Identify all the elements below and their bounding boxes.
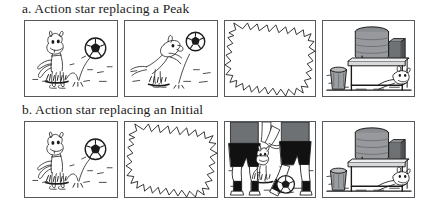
action-star-burst-icon [225,21,315,96]
soccer-ball [85,38,106,58]
panel-b2-action-star[interactable] [124,121,218,198]
water-cooler-table-art [323,21,414,96]
comic-figure: a. Action star replacing a Peak [0,0,427,216]
panel-b4-water-cooler-table[interactable] [322,121,415,198]
row-b-caption: b. Action star replacing an Initial [22,101,203,118]
panel-a2-dog-heading-ball[interactable] [124,20,218,97]
row-b-panels [0,121,427,199]
row-a-caption: a. Action star replacing a Peak [22,0,189,17]
panel-a4-water-cooler-table[interactable] [322,20,415,97]
water-cooler-table-art [323,122,414,197]
soccer-ball [186,32,205,51]
dog-bouncing-ball-art [25,122,117,197]
row-a-panels [0,20,427,98]
dog-heading-ball-art [125,21,217,96]
dog-bouncing-ball-art [25,21,117,96]
panel-b3-soccer-players[interactable] [224,121,316,198]
panel-a1-dog-bouncing-ball[interactable] [24,20,118,97]
soccer-players-legs-art [225,122,315,197]
soccer-ball [85,139,106,159]
panel-a3-action-star[interactable] [224,20,316,97]
panel-b1-dog-bouncing-ball[interactable] [24,121,118,198]
soccer-ball [277,176,295,194]
action-star-burst-icon [125,122,217,197]
